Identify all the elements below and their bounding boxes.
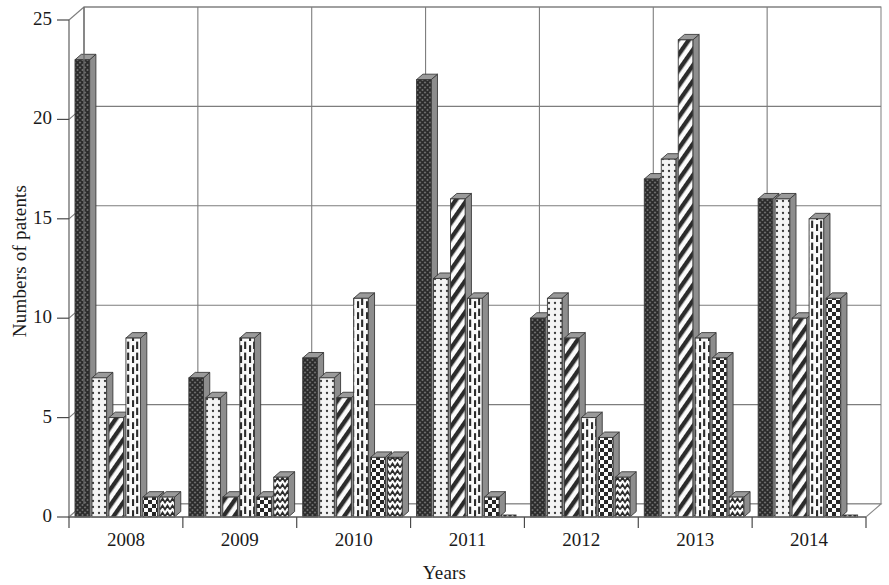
bar-2011-series-4-dashed-vertical [468,293,489,517]
gridline-depth [69,7,84,20]
bar-body [223,497,238,517]
bar-side-face [141,333,147,517]
bar-body [792,318,807,517]
bar-body [109,418,124,517]
bar-body [274,477,289,517]
bar-body [547,298,562,517]
bar-body [75,60,90,517]
bar-2014-series-5-checkerboard [826,293,847,517]
bar-2008-series-4-dashed-vertical [126,333,147,517]
bar-body [160,497,175,517]
bar-side-face [482,293,488,517]
bar-2008-series-6-wavy [160,492,181,517]
bar-body [303,358,318,517]
bar-body [143,497,158,517]
bar-body [240,338,255,517]
bar-body [530,318,545,517]
bar-body [826,298,841,517]
bar-side-face [630,472,636,517]
bar-body [661,159,676,517]
bar-side-face [288,472,294,517]
bar-body [92,378,107,517]
bar-body [598,437,613,517]
bar-body [729,497,744,517]
bar-body [388,457,403,517]
bar-body [615,477,630,517]
bar-body [581,418,596,517]
bar-body [189,378,204,517]
bar-body [678,40,693,517]
bar-body [644,179,659,517]
bar-body [468,298,483,517]
bar-body [320,378,335,517]
bar-body [417,80,432,517]
bar-2013-series-6-wavy [729,492,750,517]
bar-body [434,278,449,517]
bar-side-face [402,452,408,517]
bar-body [206,398,221,517]
bar-2010-series-6-wavy [388,452,409,517]
bar-body [371,457,386,517]
bar-side-face [727,353,733,518]
bar-2012-series-6-wavy [615,472,636,517]
bar-body [758,199,773,517]
bar-body [695,338,710,517]
bar-body [775,199,790,517]
bar-side-face [841,293,847,517]
bar-2009-series-6-wavy [274,472,295,517]
bar-body [126,338,141,517]
bar-body [712,358,727,517]
plot-area [0,0,889,585]
bar-side-face [254,333,260,517]
bar-2011-series-5-checkerboard [484,492,505,517]
bar-body [337,398,352,517]
bar-body [451,199,466,517]
bar-chart: Numbers of patents Years 0510152025 2008… [0,0,889,585]
bar-body [354,298,369,517]
bar-body [257,497,272,517]
bar-body [484,497,499,517]
bar-2013-series-5-checkerboard [712,353,733,518]
bar-body [809,219,824,517]
bar-2009-series-4-dashed-vertical [240,333,261,517]
bar-body [564,338,579,517]
